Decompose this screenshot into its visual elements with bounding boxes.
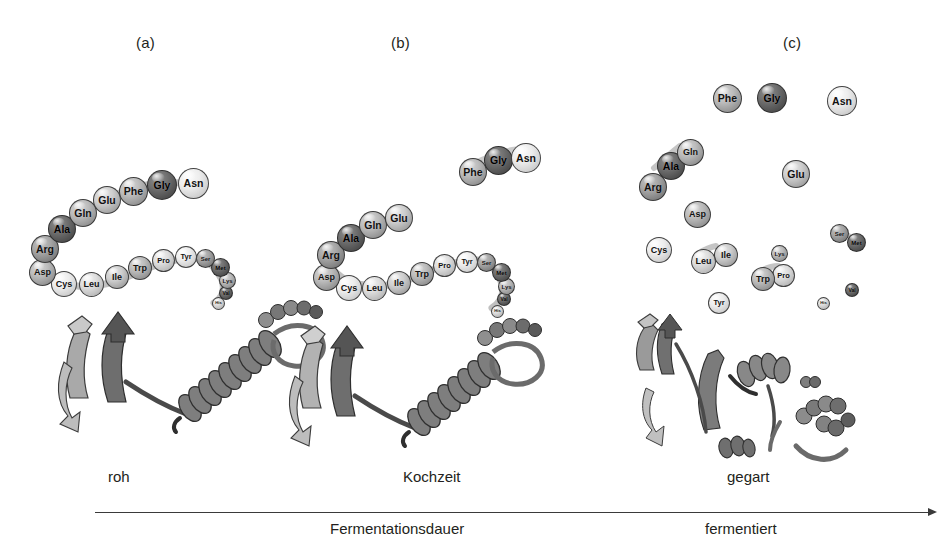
panel-c-fragmented-structures [618, 312, 948, 472]
residue-label: Gly [154, 180, 171, 191]
residue-gly-c: Gly [757, 83, 787, 113]
residue-label: Cys [56, 280, 73, 289]
residue-phe-b: Phe [459, 158, 487, 186]
residue-label: Asp [689, 210, 706, 219]
timeline-axis [95, 512, 930, 513]
residue-pro-a: Pro [152, 249, 175, 272]
residue-his-c: His [817, 297, 830, 310]
residue-trp-b: Trp [410, 262, 434, 286]
residue-label: Ile [112, 273, 122, 282]
residue-pro-c: Pro [772, 264, 795, 287]
axis-label-roh: roh [108, 468, 130, 485]
residue-label: Ile [721, 251, 731, 260]
residue-gly-b: Gly [484, 146, 513, 175]
residue-phe-a: Phe [119, 177, 148, 206]
residue-label: Ala [343, 233, 359, 244]
residue-label: Gln [683, 148, 698, 157]
residue-label: Leu [366, 284, 382, 293]
residue-label: Asp [318, 273, 335, 282]
residue-label: Trp [133, 264, 147, 273]
residue-label: Pro [777, 272, 790, 280]
residue-label: Pro [438, 262, 451, 270]
residue-label: Val [500, 297, 507, 302]
residue-asp-a: Asp [29, 259, 56, 286]
residue-label: Met [851, 240, 861, 246]
residue-ser-c: Ser [830, 224, 849, 243]
residue-label: Gly [490, 155, 507, 166]
residue-trp-a: Trp [128, 256, 152, 280]
timeline-arrowhead [928, 508, 937, 516]
residue-label: Met [496, 270, 506, 276]
residue-glu-a: Glu [93, 186, 121, 214]
residue-ile-a: Ile [105, 265, 129, 289]
residue-tyr-c: Tyr [708, 292, 730, 314]
axis-label-kochzeit: Kochzeit [403, 468, 461, 485]
residue-lys-c: Lys [771, 245, 788, 262]
residue-his-b: His [491, 305, 504, 318]
residue-label: Asp [34, 268, 51, 277]
axis-label-fermentationsdauer: Fermentationsdauer [330, 520, 464, 537]
residue-label: Val [848, 288, 855, 293]
residue-asn-a: Asn [178, 168, 209, 199]
residue-ile-b: Ile [387, 271, 411, 295]
figure-canvas: (a) (b) (c) [0, 0, 951, 558]
residue-label: Leu [83, 280, 99, 289]
residue-label: His [215, 301, 222, 305]
residue-leu-c: Leu [691, 249, 716, 274]
residue-gln-c: Gln [677, 139, 704, 166]
residue-label: Ser [201, 256, 211, 262]
residue-label: Phe [124, 186, 143, 197]
residue-gln-b: Gln [359, 211, 387, 239]
residue-label: Phe [718, 93, 737, 104]
residue-asp-c: Asp [684, 201, 711, 228]
residue-label: Lys [501, 284, 511, 290]
residue-ser-b: Ser [477, 253, 496, 272]
residue-label: Val [222, 291, 229, 296]
residue-label: Trp [415, 270, 429, 279]
residue-leu-b: Leu [362, 276, 387, 301]
residue-label: Asn [516, 153, 536, 164]
residue-label: Gly [764, 93, 781, 104]
residue-ser-a: Ser [196, 249, 215, 268]
residue-label: Ser [482, 260, 492, 266]
residue-label: Gln [364, 220, 382, 231]
residue-label: Tyr [180, 253, 191, 261]
residue-glu-b: Glu [385, 204, 413, 232]
residue-asn-c: Asn [827, 86, 857, 116]
residue-label: Arg [322, 250, 340, 261]
residue-label: His [820, 301, 827, 305]
residue-label: Gln [74, 208, 92, 219]
residue-ile-c: Ile [714, 243, 738, 267]
residue-label: Cys [651, 246, 668, 255]
residue-label: Arg [644, 182, 662, 193]
residue-asn-b: Asn [511, 143, 541, 173]
residue-tyr-a: Tyr [175, 246, 197, 268]
residue-label: Met [215, 265, 225, 271]
residue-label: Pro [157, 257, 170, 265]
residue-phe-c: Phe [713, 84, 742, 113]
residue-met-c: Met [847, 233, 866, 252]
residue-label: Trp [756, 275, 770, 284]
residue-label: Cys [341, 284, 358, 293]
residue-label: Arg [36, 244, 54, 255]
residue-label: Glu [390, 213, 408, 224]
residue-label: Ser [835, 231, 845, 237]
residue-pro-b: Pro [433, 254, 456, 277]
residue-label: Leu [695, 257, 711, 266]
residue-val-c: Val [845, 283, 859, 297]
residue-label: Ile [394, 279, 404, 288]
axis-label-gegart: gegart [727, 468, 770, 485]
residue-label: Lys [774, 251, 784, 257]
residue-label: Asn [832, 96, 852, 107]
residue-label: Lys [222, 278, 232, 284]
residue-gly-a: Gly [147, 170, 177, 200]
residue-label: Tyr [461, 258, 472, 266]
residue-trp-c: Trp [751, 267, 775, 291]
axis-label-fermentiert: fermentiert [705, 520, 777, 537]
residue-label: Ala [54, 224, 70, 235]
residue-label: Phe [463, 167, 482, 178]
residue-leu-a: Leu [79, 272, 104, 297]
residue-tyr-b: Tyr [456, 251, 478, 273]
residue-label: Glu [787, 169, 805, 180]
residue-label: Glu [98, 195, 116, 206]
